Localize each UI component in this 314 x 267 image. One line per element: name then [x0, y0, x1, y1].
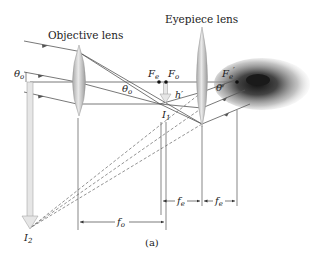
ray-incoming-mid: [24, 72, 77, 82]
focal-point-Fe-prime: [235, 80, 239, 84]
image-I2-arrow: [22, 82, 38, 229]
ray-top-continue: [77, 51, 202, 124]
Fe-label: Fe: [147, 68, 159, 81]
dashed-extension-3: [30, 124, 202, 228]
theta-o-left-label: θo: [14, 68, 24, 81]
h-prime-label: h′: [175, 89, 184, 100]
figure-caption: (a): [145, 237, 159, 248]
ray-incoming-top: [24, 41, 77, 51]
dashed-extension-2: [30, 108, 202, 228]
ray-arrow-icon: [38, 75, 44, 79]
I1-label: I1: [161, 109, 170, 122]
eyepiece-lens: [197, 27, 208, 127]
Fo-label: Fo: [167, 68, 179, 81]
ray-mid-to-I1: [77, 82, 160, 104]
theta-label: θ: [216, 82, 222, 93]
Fe-prime-label: Fe′: [221, 65, 235, 81]
I2-label: I2: [23, 232, 33, 245]
eye-image: [214, 58, 310, 110]
telescope-diagram: Objective lens Eyepiece lens θo θo θ Fe …: [0, 0, 314, 267]
focal-point-Fo: [164, 80, 168, 84]
objective-lens-label: Objective lens: [48, 29, 123, 41]
eyepiece-lens-label: Eyepiece lens: [165, 13, 238, 25]
